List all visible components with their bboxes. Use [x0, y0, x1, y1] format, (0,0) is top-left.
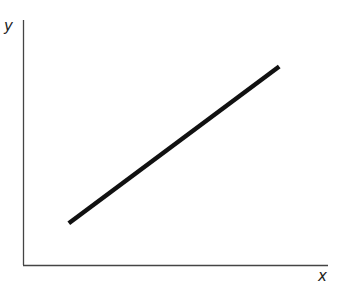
data-line — [69, 67, 279, 224]
x-axis-label: x — [317, 267, 327, 285]
line-chart: y x — [0, 0, 340, 293]
y-axis-label: y — [3, 17, 14, 35]
